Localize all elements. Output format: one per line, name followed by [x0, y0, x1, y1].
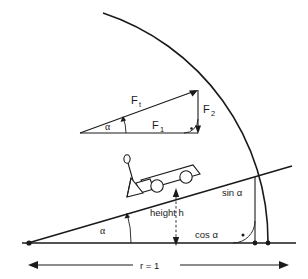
height-dimension-group: height h [150, 188, 184, 246]
cosine-group: cos α [195, 229, 218, 240]
origin-vertex-dot [26, 240, 31, 245]
cart-wheel-rear [151, 180, 163, 192]
force-horizontal-label: F [152, 119, 159, 131]
base-right-angle-group [233, 221, 255, 243]
incline-angle-label: α [100, 225, 106, 236]
arc-terminus-group [266, 241, 271, 246]
force-vertical-subscript: 2 [211, 109, 215, 118]
height-arrowhead-top [173, 188, 179, 197]
cart-wheel-front [180, 171, 192, 183]
force-triangle-group: α F t F 2 F 1 [80, 90, 215, 134]
cosine-label: cos α [195, 229, 218, 240]
unit-circle-arc [103, 13, 268, 242]
radius-label: r = 1 [140, 260, 159, 271]
radius-arrowhead-left [28, 261, 38, 269]
unit-circle-arc-group [103, 13, 268, 242]
diagram-canvas: α α F t F 2 F 1 [0, 0, 308, 279]
height-arrowhead-bottom [173, 237, 179, 246]
force-horizontal-subscript: 1 [160, 125, 164, 134]
sine-label: sin α [222, 187, 243, 198]
force-triangle-angle-label: α [105, 121, 111, 132]
base-right-angle-arc [233, 221, 255, 243]
force-triangle-right-angle-arc [184, 119, 198, 133]
force-hypotenuse-subscript: t [139, 100, 142, 109]
base-right-angle-dot [242, 234, 245, 237]
force-hypotenuse-label: F [131, 94, 138, 106]
arc-terminus-dot [266, 241, 271, 246]
sine-foot-dot [253, 241, 258, 246]
force-triangle-right-angle-dot [190, 127, 193, 130]
sine-group: sin α [222, 177, 257, 245]
force-vertical-label: F [203, 103, 210, 115]
cart-tow-eye [124, 155, 130, 163]
cart-group [124, 155, 200, 197]
height-label: height h [150, 207, 184, 218]
radius-dimension-group: r = 1 [28, 260, 289, 271]
radius-arrowhead-right [279, 261, 289, 269]
physics-diagram: α α F t F 2 F 1 [0, 0, 308, 279]
